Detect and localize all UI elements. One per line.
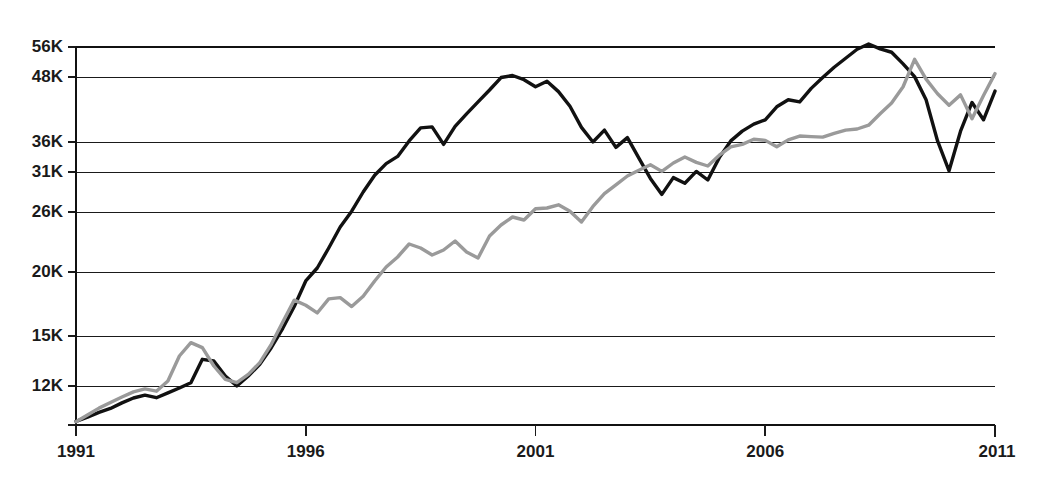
chart-canvas: 12K15K20K26K31K36K48K56K 199119962001200… [0, 0, 1045, 493]
series-group [76, 44, 995, 422]
x-axis-tick-label: 2006 [746, 442, 784, 461]
y-axis-tick-label: 56K [32, 37, 64, 56]
x-axis-tick-label: 1991 [57, 442, 95, 461]
y-axis-tick-label: 12K [32, 376, 64, 395]
x-axis-tick-label: 1996 [287, 442, 325, 461]
y-axis-tick-label: 36K [32, 132, 64, 151]
y-axis-labels-group: 12K15K20K26K31K36K48K56K [32, 37, 64, 395]
y-axis-tick-label: 48K [32, 67, 64, 86]
line-chart-panel: 12K15K20K26K31K36K48K56K 199119962001200… [0, 0, 1045, 493]
gridlines-group [76, 47, 995, 386]
plot-area-border [68, 47, 995, 437]
data-line-series-gray [76, 59, 995, 421]
y-axis-tick-label: 15K [32, 326, 64, 345]
x-axis-tick-label: 2011 [979, 442, 1016, 461]
y-axis-tick-label: 31K [32, 162, 64, 181]
x-axis-ticks-group [76, 425, 765, 436]
y-axis-tick-label: 20K [32, 262, 64, 281]
y-axis-tick-label: 26K [32, 202, 64, 221]
x-axis-labels-group: 19911996200120062011 [57, 442, 1015, 461]
x-axis-tick-label: 2001 [517, 442, 555, 461]
